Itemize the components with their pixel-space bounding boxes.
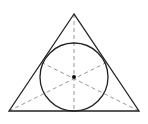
median-right xyxy=(42,63,140,112)
median-left xyxy=(9,63,107,112)
incenter-point xyxy=(72,75,76,79)
incircle-diagram xyxy=(0,0,148,124)
